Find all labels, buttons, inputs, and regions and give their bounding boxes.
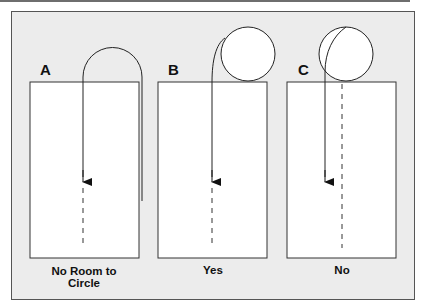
panel-a-drawing	[30, 47, 142, 258]
panel-b-caption: Yes	[153, 264, 273, 276]
panel-c-label: C	[298, 61, 309, 78]
maneuver-diagram	[0, 0, 423, 306]
panel-b-label: B	[168, 61, 179, 78]
panel-a-caption: No Room to Circle	[24, 265, 144, 289]
panel-a-caption-line2: Circle	[24, 277, 144, 289]
panel-a-rectangle	[30, 82, 139, 258]
panel-a-caption-line1: No Room to	[24, 265, 144, 277]
panel-a-label: A	[40, 61, 51, 78]
panel-c-caption: No	[282, 264, 402, 276]
panel-b-circle	[221, 27, 275, 81]
